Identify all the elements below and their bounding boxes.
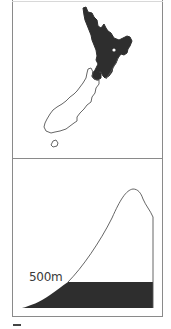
lowland-fill — [22, 282, 153, 308]
north-island-shape — [83, 7, 132, 78]
footer-fragment — [13, 324, 21, 326]
elevation-profile — [22, 189, 153, 308]
south-island-shape — [44, 68, 99, 133]
nz-map — [44, 7, 132, 147]
lake-taupo — [112, 48, 115, 51]
figure: 500m — [0, 0, 171, 329]
elevation-threshold-label: 500m — [29, 271, 62, 283]
stewart-island-shape — [51, 140, 58, 147]
figure-canvas — [0, 0, 171, 329]
